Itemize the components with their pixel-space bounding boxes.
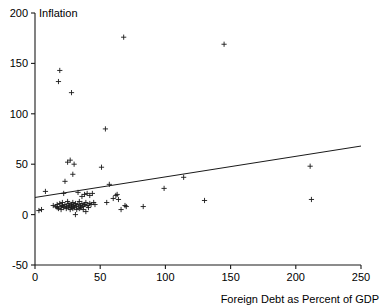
data-point <box>56 79 61 84</box>
x-tick-label: 150 <box>221 271 239 283</box>
x-tick-label: 0 <box>32 271 38 283</box>
data-point <box>36 208 41 213</box>
y-axis-title: Inflation <box>39 7 78 19</box>
x-axis-ticks: 050100150200250 <box>32 265 370 283</box>
data-point <box>99 165 104 170</box>
data-point <box>111 196 116 201</box>
x-tick-label: 100 <box>156 271 174 283</box>
data-point <box>69 90 74 95</box>
y-tick-label: 50 <box>16 158 28 170</box>
data-point <box>39 207 44 212</box>
y-tick-label: 200 <box>10 7 28 19</box>
x-tick-label: 200 <box>287 271 305 283</box>
data-point <box>309 197 314 202</box>
x-axis-title: Foreign Debt as Percent of GDP <box>221 293 379 305</box>
data-point <box>104 200 109 205</box>
data-point <box>62 179 67 184</box>
data-point <box>118 207 123 212</box>
x-tick-label: 50 <box>94 271 106 283</box>
data-point-markers <box>36 35 314 218</box>
data-point <box>122 203 127 208</box>
x-tick-label: 250 <box>352 271 370 283</box>
data-point <box>181 175 186 180</box>
data-point <box>308 164 313 169</box>
scatter-plot-figure: -50050100150200 Inflation 05010015020025… <box>0 0 383 308</box>
data-point <box>116 197 121 202</box>
regression-line <box>35 146 361 197</box>
chart-canvas: -50050100150200 Inflation 05010015020025… <box>0 0 383 308</box>
y-tick-label: 0 <box>22 209 28 221</box>
data-point <box>113 193 118 198</box>
data-point <box>161 186 166 191</box>
data-point <box>121 35 126 40</box>
y-tick-label: 150 <box>10 57 28 69</box>
data-point <box>141 204 146 209</box>
y-tick-label: -50 <box>12 259 28 271</box>
data-point <box>103 126 108 131</box>
data-point <box>221 42 226 47</box>
data-point <box>43 189 48 194</box>
data-point <box>124 204 129 209</box>
data-point <box>202 198 207 203</box>
y-tick-label: 100 <box>10 108 28 120</box>
trendline <box>35 146 361 197</box>
data-point <box>72 162 77 167</box>
data-point <box>73 212 78 217</box>
data-point <box>70 172 75 177</box>
y-axis-ticks: -50050100150200 <box>10 7 35 271</box>
data-point <box>61 191 66 196</box>
y-axis-group: -50050100150200 Inflation <box>10 7 78 271</box>
data-point <box>115 192 120 197</box>
data-point <box>57 68 62 73</box>
x-axis-group: 050100150200250 Foreign Debt as Percent … <box>32 265 379 305</box>
